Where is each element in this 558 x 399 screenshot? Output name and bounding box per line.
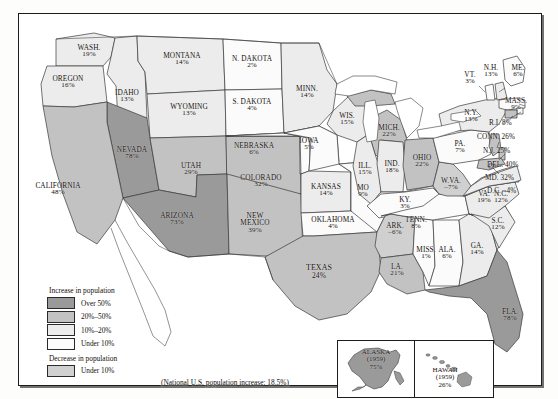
state-kansas [301, 171, 351, 213]
legend-label-20-to-50: 20%–50% [81, 312, 111, 321]
state-alabama [429, 220, 463, 286]
legend-heading-decrease: Decrease in population [49, 354, 169, 363]
state-rhode-island [517, 108, 523, 114]
state-vermont [485, 84, 495, 100]
alaska-hawaii-inset: ALASKA (1959) 75% HAWAII (1959) 26% [337, 340, 494, 398]
legend-item-under-10: Under 10% [47, 338, 169, 350]
state-oregon [41, 66, 107, 107]
inset-label-hawaii: HAWAII (1959) 26% [420, 367, 470, 389]
legend-item-decrease-under-10: Under 10% [47, 365, 169, 377]
legend-swatch-under-10 [47, 338, 75, 350]
legend-label-10-to-20: 10%–20% [81, 326, 111, 335]
legend-heading-increase: Increase in population [49, 286, 169, 295]
state-north-dakota [223, 39, 282, 90]
legend-item-over-50: Over 50% [47, 297, 169, 309]
map-page: .s{stroke:#3a3a3a;stroke-width:.7;stroke… [0, 0, 558, 399]
state-connecticut [505, 110, 517, 118]
legend-swatch-over-50 [47, 297, 75, 309]
legend-label-under-10: Under 10% [81, 339, 114, 348]
state-south-dakota [225, 89, 284, 136]
legend-item-10-to-20: 10%–20% [47, 324, 169, 336]
map-frame: .s{stroke:#3a3a3a;stroke-width:.7;stroke… [18, 13, 542, 386]
legend-item-20-to-50: 20%–50% [47, 311, 169, 323]
state-wyoming [147, 90, 226, 138]
state-district-of-columbia [489, 164, 493, 168]
state-indiana2 [377, 140, 405, 192]
state-montana [137, 36, 225, 94]
legend-label-over-50: Over 50% [81, 299, 111, 308]
legend-swatch-10-to-20 [47, 324, 75, 336]
legend-swatch-20-to-50 [47, 311, 75, 323]
inset-hawaii-value: 26% [439, 381, 452, 389]
legend-swatch-decrease [47, 365, 75, 377]
inset-label-alaska: ALASKA (1959) 75% [346, 349, 406, 371]
national-increase-note: (National U.S. population increase: 18.5… [161, 378, 289, 387]
map-legend: Increase in population Over 50% 20%–50% … [47, 286, 169, 378]
legend-label-decrease-under-10: Under 10% [81, 366, 114, 375]
inset-alaska-value: 75% [370, 363, 383, 371]
